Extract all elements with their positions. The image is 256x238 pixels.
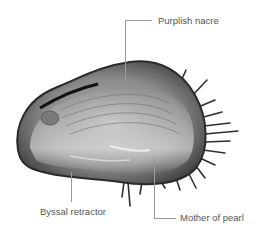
label-purplish-nacre: Purplish nacre xyxy=(158,15,219,26)
leader-line-mother-of-pearl-vertical xyxy=(154,158,155,219)
label-byssal-retractor: Byssal retractor xyxy=(40,206,106,217)
mussel-shell-illustration xyxy=(0,0,256,238)
leader-line-purplish-nacre-horizontal xyxy=(125,20,152,21)
label-mother-of-pearl: Mother of pearl xyxy=(180,212,244,223)
leader-line-byssal-retractor xyxy=(71,172,72,202)
leader-line-mother-of-pearl-horizontal xyxy=(154,218,176,219)
leader-line-purplish-nacre-vertical xyxy=(125,20,126,82)
